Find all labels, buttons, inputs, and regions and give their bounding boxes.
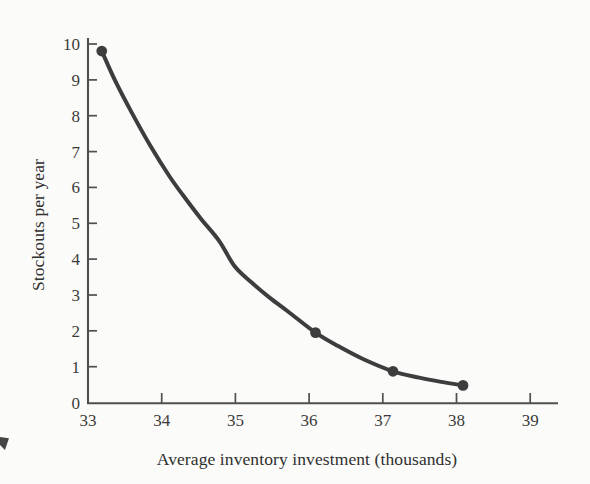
- data-point: [310, 327, 321, 338]
- y-tick-label-3: 3: [72, 287, 81, 304]
- x-tick-label-39: 39: [522, 412, 539, 429]
- x-tick-label-38: 38: [448, 412, 465, 429]
- y-tick-label-9: 9: [72, 71, 81, 88]
- data-point: [388, 366, 399, 377]
- x-tick-label-35: 35: [227, 412, 244, 429]
- chart-figure: 10 9 8 7 6 5 4 3 2 1 0 33 34 35 36 37 38…: [0, 0, 590, 484]
- x-tick-label-33: 33: [80, 412, 97, 429]
- y-tick-label-5: 5: [72, 215, 81, 232]
- y-tick-label-6: 6: [72, 179, 81, 196]
- y-tick-label-2: 2: [72, 322, 81, 339]
- y-tick-label-10: 10: [63, 36, 80, 53]
- x-tick-label-34: 34: [153, 412, 170, 429]
- y-tick-label-1: 1: [72, 358, 81, 375]
- x-axis-ticks: [162, 393, 531, 403]
- data-curve: [102, 51, 463, 385]
- y-axis-ticks: [88, 44, 97, 367]
- data-point: [458, 380, 469, 391]
- x-tick-label-37: 37: [374, 412, 391, 429]
- y-tick-label-0: 0: [72, 394, 81, 411]
- y-tick-label-4: 4: [72, 251, 81, 268]
- data-point-markers: [96, 46, 468, 391]
- data-point: [96, 46, 107, 57]
- y-tick-label-7: 7: [72, 143, 81, 160]
- y-axis-title: Stockouts per year: [28, 159, 49, 291]
- x-tick-label-36: 36: [301, 412, 318, 429]
- y-tick-label-8: 8: [72, 107, 81, 124]
- x-axis-title: Average inventory investment (thousands): [157, 449, 458, 470]
